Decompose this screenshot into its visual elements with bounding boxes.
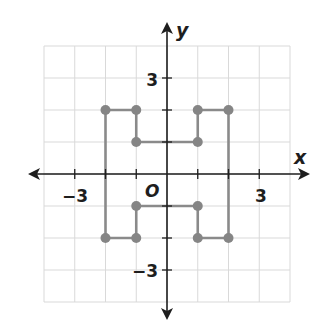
- x-axis-label: x: [293, 146, 307, 168]
- origin-label: O: [145, 181, 159, 201]
- vertex-dot: [193, 233, 203, 243]
- vertex-dot: [224, 233, 234, 243]
- y-tick-label-neg3: −3: [132, 261, 158, 281]
- y-axis-label: y: [176, 19, 190, 41]
- vertex-dot: [193, 105, 203, 115]
- vertex-dot: [101, 105, 111, 115]
- vertex-dot: [131, 201, 141, 211]
- coordinate-plane: y x O −3 3 3 −3: [0, 0, 321, 334]
- vertex-dot: [131, 105, 141, 115]
- x-tick-label-3: 3: [255, 186, 267, 206]
- axes: [28, 22, 310, 320]
- x-tick-label-neg3: −3: [62, 186, 88, 206]
- vertex-dot: [131, 137, 141, 147]
- vertex-dot: [131, 233, 141, 243]
- vertex-dot: [101, 233, 111, 243]
- y-tick-label-3: 3: [146, 70, 158, 90]
- vertex-dot: [193, 137, 203, 147]
- vertex-dot: [193, 201, 203, 211]
- vertex-dot: [224, 105, 234, 115]
